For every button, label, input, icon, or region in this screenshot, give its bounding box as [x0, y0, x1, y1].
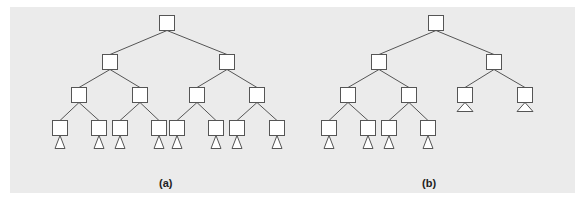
tree-edge [436, 31, 494, 55]
tree-node [402, 88, 417, 103]
subtree-triangle-icon [324, 136, 334, 149]
tree-node [230, 121, 245, 136]
tree-edge [348, 103, 368, 121]
tree-a [53, 16, 285, 149]
tree-node [250, 88, 265, 103]
tree-edge [110, 70, 140, 88]
subtree-triangle-icon [457, 103, 473, 112]
tree-node [190, 88, 205, 103]
tree-edge [348, 70, 379, 88]
tree-edge [329, 103, 348, 121]
tree-edge [79, 103, 99, 121]
subtree-triangle-icon [115, 136, 125, 149]
tree-edge [197, 103, 216, 121]
tree-edge [79, 70, 110, 88]
tree-node [220, 55, 235, 70]
tree-edge [140, 103, 159, 121]
tree-node [341, 88, 356, 103]
tree-edge [379, 31, 436, 55]
tree-node [429, 16, 444, 31]
subtree-triangle-icon [423, 136, 433, 149]
tree-edge [465, 70, 494, 88]
tree-node [152, 121, 167, 136]
tree-node [322, 121, 337, 136]
tree-node [53, 121, 68, 136]
tree-node [421, 121, 436, 136]
tree-edge [167, 31, 227, 55]
subtree-triangle-icon [211, 136, 221, 149]
tree-node [518, 88, 533, 103]
tree-node [270, 121, 285, 136]
tree-node [361, 121, 376, 136]
tree-b [322, 16, 534, 149]
tree-node [382, 121, 397, 136]
tree-edge [257, 103, 277, 121]
subtree-triangle-icon [232, 136, 242, 149]
tree-edge [197, 70, 227, 88]
tree-edge [237, 103, 257, 121]
tree-edge [110, 31, 167, 55]
tree-edge [379, 70, 409, 88]
subtree-triangle-icon [154, 136, 164, 149]
subtree-triangle-icon [363, 136, 373, 149]
tree-node [372, 55, 387, 70]
tree-diagram [0, 0, 585, 202]
tree-node [113, 121, 128, 136]
tree-node [487, 55, 502, 70]
subfigure-label-b: (b) [422, 177, 436, 189]
tree-node [133, 88, 148, 103]
tree-edge [494, 70, 525, 88]
tree-edge [227, 70, 257, 88]
tree-edge [389, 103, 409, 121]
tree-edge [120, 103, 140, 121]
tree-node [209, 121, 224, 136]
subtree-triangle-icon [272, 136, 282, 149]
subtree-triangle-icon [172, 136, 182, 149]
tree-node [160, 16, 175, 31]
tree-node [170, 121, 185, 136]
tree-node [103, 55, 118, 70]
subtree-triangle-icon [517, 103, 533, 112]
subfigure-label-a: (a) [159, 177, 172, 189]
tree-node [458, 88, 473, 103]
tree-node [72, 88, 87, 103]
tree-edge [60, 103, 79, 121]
subtree-triangle-icon [94, 136, 104, 149]
subtree-triangle-icon [384, 136, 394, 149]
tree-node [92, 121, 107, 136]
tree-edge [409, 103, 428, 121]
tree-edge [177, 103, 197, 121]
subtree-triangle-icon [55, 136, 65, 149]
